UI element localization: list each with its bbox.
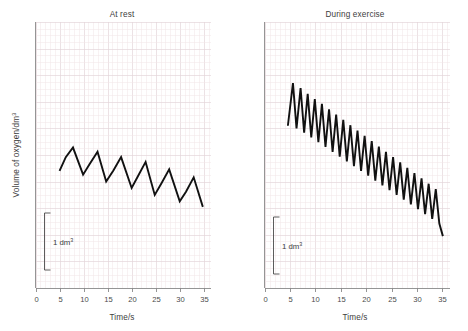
x-tick-label: 5 (58, 295, 62, 304)
scale-bar-label-during-exercise: 1 dm3 (282, 241, 302, 251)
x-tick-label: 5 (288, 295, 292, 304)
x-tick-label: 0 (34, 295, 38, 304)
spirometer-figure: At rest 05101520253035 1 dm3 Volume of o… (0, 0, 468, 331)
x-axis-label-during-exercise: Time/s (342, 313, 367, 322)
y-axis-label-at-rest: Volume of oxygen/dm3 (11, 113, 21, 198)
x-tick-label: 10 (80, 295, 88, 304)
scale-bar-label-at-rest: 1 dm3 (53, 237, 73, 247)
x-tick-label: 20 (362, 295, 370, 304)
x-tick-label: 15 (337, 295, 345, 304)
x-tick-label: 30 (176, 295, 184, 304)
panel-title-during-exercise: During exercise (325, 10, 384, 19)
x-tick-label: 25 (152, 295, 160, 304)
x-tick-label: 10 (311, 295, 319, 304)
x-tick-label: 35 (200, 295, 208, 304)
x-tick-label: 15 (104, 295, 112, 304)
x-tick-label: 25 (388, 295, 396, 304)
x-axis-label-at-rest: Time/s (109, 313, 134, 322)
panel-title-at-rest: At rest (110, 10, 135, 19)
x-tick-label: 30 (413, 295, 421, 304)
chart-canvas: At rest 05101520253035 1 dm3 Volume of o… (0, 0, 468, 331)
x-tick-label: 20 (128, 295, 136, 304)
x-tick-label: 0 (263, 295, 267, 304)
x-tick-label: 35 (438, 295, 446, 304)
